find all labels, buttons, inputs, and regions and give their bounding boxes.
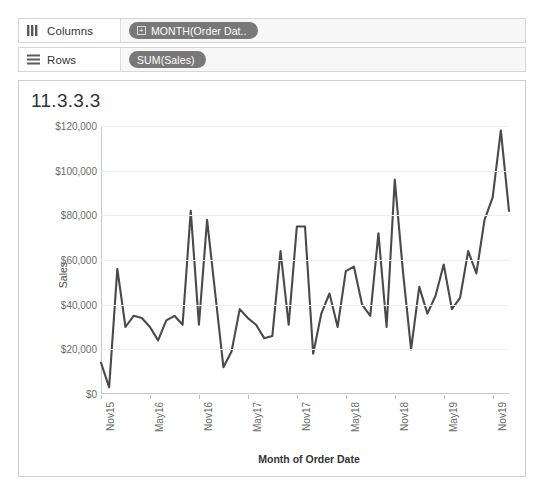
y-axis-ticks: $0$20,000$40,000$60,000$80,000$100,000$1… [19,81,97,476]
x-axis-tickmark [444,395,445,399]
x-axis-tick-label: May18 [350,402,361,432]
rows-shelf-dropzone[interactable]: SUM(Sales) [121,48,525,71]
pill-sum-sales[interactable]: SUM(Sales) [129,51,206,68]
y-axis-tick-label: $120,000 [37,121,97,132]
x-axis-tickmark [493,395,494,399]
plot-area [101,126,509,394]
shelf-area: Columns + MONTH(Order Dat.. Rows [18,18,526,72]
gridline [101,215,509,216]
x-axis-tick-label: May16 [154,402,165,432]
gridline [101,171,509,172]
gridline [101,305,509,306]
columns-shelf-label: Columns [47,25,93,37]
view-panel: 11.3.3.3 Sales $0$20,000$40,000$60,000$8… [18,80,526,477]
x-axis-tickmark [248,395,249,399]
y-axis-tick-label: $60,000 [37,255,97,266]
y-axis-tick-label: $0 [37,389,97,400]
x-axis-tick-label: Nov16 [203,402,214,431]
x-axis-tick-label: May19 [448,402,459,432]
pill-month-order-date[interactable]: + MONTH(Order Dat.. [129,22,258,39]
gridline [101,260,509,261]
x-axis-ticks: Nov15May16Nov16May17Nov17May18Nov18May19… [101,395,509,453]
x-axis-tickmark [101,395,102,399]
x-axis-tick-label: Nov17 [301,402,312,431]
x-axis-tick-label: Nov15 [105,402,116,431]
columns-shelf-dropzone[interactable]: + MONTH(Order Dat.. [121,19,525,42]
y-axis-tick-label: $40,000 [37,299,97,310]
pill-label: MONTH(Order Dat.. [151,25,247,37]
x-axis-tick-label: Nov18 [399,402,410,431]
x-axis-title: Month of Order Date [99,453,519,465]
rows-shelf-header: Rows [19,48,121,71]
gridline [101,349,509,350]
pill-label: SUM(Sales) [137,54,195,66]
x-axis-tickmark [150,395,151,399]
y-axis-tick-label: $80,000 [37,210,97,221]
x-axis-tick-label: Nov19 [497,402,508,431]
tableau-worksheet: Columns + MONTH(Order Dat.. Rows [0,0,543,497]
x-axis-tickmark [297,395,298,399]
columns-shelf-header: Columns [19,19,121,42]
columns-shelf[interactable]: Columns + MONTH(Order Dat.. [18,18,526,43]
gridline [101,126,509,127]
x-axis-tickmark [395,395,396,399]
pill-expand-icon[interactable]: + [137,26,146,35]
chart-canvas: Sales $0$20,000$40,000$60,000$80,000$100… [19,81,525,476]
rows-shelf[interactable]: Rows SUM(Sales) [18,47,526,72]
x-axis-tick-label: May17 [252,402,263,432]
x-axis-tickmark [199,395,200,399]
y-axis-tick-label: $20,000 [37,344,97,355]
x-axis-tickmark [346,395,347,399]
rows-icon [27,54,40,65]
columns-icon [27,25,40,36]
y-axis-tick-label: $100,000 [37,165,97,176]
rows-shelf-label: Rows [47,54,76,66]
